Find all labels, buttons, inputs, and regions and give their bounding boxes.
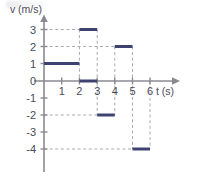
y-tick-label: 1 (30, 58, 36, 70)
y-tick-label: 3 (30, 24, 36, 36)
x-tick-label: 4 (112, 85, 118, 97)
x-axis-label: t (s) (156, 85, 174, 97)
y-tick-label: 2 (30, 41, 36, 53)
y-tick-label: -3 (26, 126, 36, 138)
y-tick-label: -4 (26, 143, 36, 155)
x-axis-arrowhead (172, 77, 180, 85)
chart-svg: 3 2 1 0 -1 -2 -3 -4 1 2 3 4 5 6 v (m/s) … (0, 0, 198, 181)
x-tick-label: 2 (76, 85, 82, 97)
velocity-time-chart: 3 2 1 0 -1 -2 -3 -4 1 2 3 4 5 6 v (m/s) … (0, 0, 198, 181)
y-tick-label: 0 (30, 75, 36, 87)
x-tick-label: 1 (59, 85, 65, 97)
x-tick-label: 6 (147, 85, 153, 97)
x-tick-labels: 1 2 3 4 5 6 (59, 85, 153, 97)
scan-artifact (6, 1, 44, 8)
y-tick-label: -2 (26, 109, 36, 121)
y-tick-labels: 3 2 1 0 -1 -2 -3 -4 (26, 24, 36, 156)
x-tick-label: 3 (94, 85, 100, 97)
y-axis-arrowhead (40, 15, 48, 23)
x-tick-label: 5 (129, 85, 135, 97)
y-tick-label: -1 (26, 92, 36, 104)
